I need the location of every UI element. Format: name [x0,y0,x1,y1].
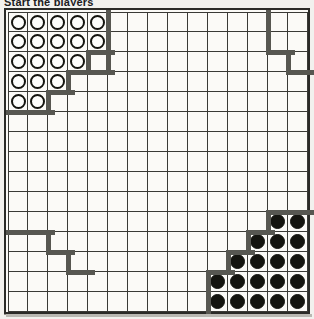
board-cell[interactable] [68,12,88,32]
board-cell[interactable] [8,172,28,192]
board-cell[interactable] [268,212,288,232]
board-cell[interactable] [108,72,128,92]
board-cell[interactable] [88,172,108,192]
board-cell[interactable] [108,92,128,112]
board-cell[interactable] [68,112,88,132]
board-cell[interactable] [268,72,288,92]
board-cell[interactable] [208,292,228,312]
board-cell[interactable] [268,272,288,292]
board-cell[interactable] [148,252,168,272]
board-cell[interactable] [128,12,148,32]
board-cell[interactable] [248,132,268,152]
board-cell[interactable] [268,292,288,312]
board-cell[interactable] [248,112,268,132]
board-cell[interactable] [228,152,248,172]
board-cell[interactable] [148,32,168,52]
board-cell[interactable] [288,52,308,72]
board-cell[interactable] [168,252,188,272]
board-cell[interactable] [48,12,68,32]
board-cell[interactable] [228,112,248,132]
board-cell[interactable] [128,192,148,212]
board-cell[interactable] [68,252,88,272]
board-cell[interactable] [28,112,48,132]
board-cell[interactable] [108,112,128,132]
board-cell[interactable] [208,32,228,52]
go-board[interactable] [4,8,310,314]
board-cell[interactable] [148,292,168,312]
board-cell[interactable] [148,232,168,252]
board-cell[interactable] [148,72,168,92]
board-cell[interactable] [248,292,268,312]
board-cell[interactable] [28,252,48,272]
board-cell[interactable] [68,132,88,152]
board-cell[interactable] [168,292,188,312]
board-cell[interactable] [188,72,208,92]
board-cell[interactable] [288,212,308,232]
board-cell[interactable] [108,32,128,52]
board-cell[interactable] [268,232,288,252]
board-cell[interactable] [68,292,88,312]
board-cell[interactable] [148,112,168,132]
board-cell[interactable] [188,92,208,112]
board-cell[interactable] [128,212,148,232]
board-cell[interactable] [248,72,268,92]
board-cell[interactable] [168,32,188,52]
board-cell[interactable] [8,72,28,92]
board-cell[interactable] [288,152,308,172]
board-cell[interactable] [128,292,148,312]
board-cell[interactable] [268,252,288,272]
board-cell[interactable] [168,212,188,232]
board-cell[interactable] [8,52,28,72]
board-cell[interactable] [168,72,188,92]
board-cell[interactable] [128,132,148,152]
board-cell[interactable] [208,112,228,132]
board-cell[interactable] [188,112,208,132]
board-cell[interactable] [128,52,148,72]
board-cell[interactable] [48,52,68,72]
board-cell[interactable] [188,292,208,312]
board-cell[interactable] [48,92,68,112]
board-cell[interactable] [228,192,248,212]
board-cell[interactable] [8,112,28,132]
board-cell[interactable] [228,92,248,112]
board-cell[interactable] [68,212,88,232]
board-cell[interactable] [8,292,28,312]
board-cell[interactable] [208,72,228,92]
board-cell[interactable] [248,232,268,252]
board-cell[interactable] [68,192,88,212]
board-cell[interactable] [228,252,248,272]
board-cell[interactable] [68,32,88,52]
board-cell[interactable] [8,152,28,172]
board-cell[interactable] [248,252,268,272]
board-cell[interactable] [128,252,148,272]
board-cell[interactable] [148,212,168,232]
board-cell[interactable] [228,292,248,312]
board-cell[interactable] [148,192,168,212]
board-cell[interactable] [148,12,168,32]
board-cell[interactable] [148,52,168,72]
board-cell[interactable] [148,152,168,172]
board-cell[interactable] [128,92,148,112]
board-cell[interactable] [208,212,228,232]
board-cell[interactable] [88,152,108,172]
board-cell[interactable] [188,32,208,52]
board-cell[interactable] [188,192,208,212]
board-cell[interactable] [228,132,248,152]
board-cell[interactable] [128,272,148,292]
board-cell[interactable] [48,252,68,272]
board-cell[interactable] [228,12,248,32]
board-cell[interactable] [208,232,228,252]
board-cell[interactable] [228,52,248,72]
board-cell[interactable] [268,92,288,112]
board-cell[interactable] [188,252,208,272]
board-cell[interactable] [248,152,268,172]
board-cell[interactable] [188,12,208,32]
board-cell[interactable] [208,272,228,292]
board-cell[interactable] [8,192,28,212]
board-cell[interactable] [268,52,288,72]
board-cell[interactable] [208,92,228,112]
board-cell[interactable] [48,132,68,152]
board-cell[interactable] [28,92,48,112]
board-cell[interactable] [168,192,188,212]
board-cell[interactable] [8,212,28,232]
